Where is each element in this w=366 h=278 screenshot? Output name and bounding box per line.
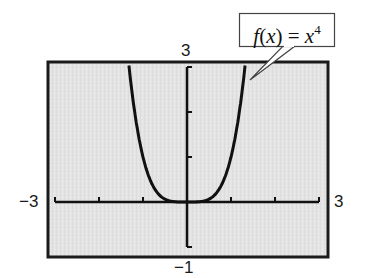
equals-sign: =	[283, 24, 305, 48]
function-name: f	[253, 24, 259, 48]
power-exponent: 4	[314, 22, 321, 37]
y-min-label: −1	[174, 259, 193, 276]
x-max-label: 3	[334, 193, 343, 210]
y-max-label: 3	[181, 42, 190, 59]
x-min-label: −3	[19, 193, 38, 210]
graphing-calculator-figure: f(x) = x4 3 −1 −3 3	[0, 0, 366, 278]
function-arg: x	[266, 24, 275, 48]
function-label: f(x) = x4	[240, 14, 334, 46]
power-base: x	[305, 24, 314, 48]
